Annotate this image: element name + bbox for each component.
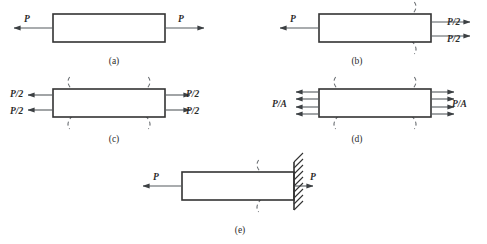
force-label-right-1: P/2 [447, 34, 460, 44]
panel-caption-b: (b) [351, 56, 362, 67]
force-label-left-0: P/2 [10, 89, 23, 99]
panel-a: PP(a) [14, 14, 204, 67]
force-label-right-0: P [310, 172, 316, 182]
force-label-right-0: P/2 [186, 89, 199, 99]
panel-caption-d: (d) [351, 134, 362, 145]
panel-caption-c: (c) [109, 134, 120, 145]
force-label-left-0: P [153, 172, 159, 182]
force-transmission-figure: PP(a)PP/2P/2(b)P/2P/2P/2P/2(c)P/AP/A(d)P… [0, 0, 487, 244]
bar-d [319, 89, 431, 117]
force-label-left-0: P [24, 14, 30, 24]
panel-b: PP/2P/2(b) [280, 2, 470, 67]
panel-e: PP(e) [143, 153, 316, 236]
force-label-right-0: P [178, 14, 184, 24]
force-label-left-0: P/A [272, 99, 287, 109]
force-label-right-1: P/2 [186, 106, 199, 116]
bar-e [182, 172, 294, 200]
panel-d: P/AP/A(d) [272, 77, 467, 145]
force-label-right-0: P/A [452, 99, 467, 109]
force-label-left-0: P [290, 14, 296, 24]
bar-a [53, 14, 165, 42]
figure-canvas: PP(a)PP/2P/2(b)P/2P/2P/2P/2(c)P/AP/A(d)P… [0, 0, 487, 244]
bar-c [53, 89, 165, 117]
bar-b [319, 14, 431, 42]
panels-group: PP(a)PP/2P/2(b)P/2P/2P/2P/2(c)P/AP/A(d)P… [10, 2, 470, 236]
panel-caption-a: (a) [109, 56, 120, 67]
force-label-left-1: P/2 [10, 106, 23, 116]
force-label-right-0: P/2 [447, 17, 460, 27]
panel-caption-e: (e) [235, 225, 246, 236]
panel-c: P/2P/2P/2P/2(c) [10, 77, 199, 145]
